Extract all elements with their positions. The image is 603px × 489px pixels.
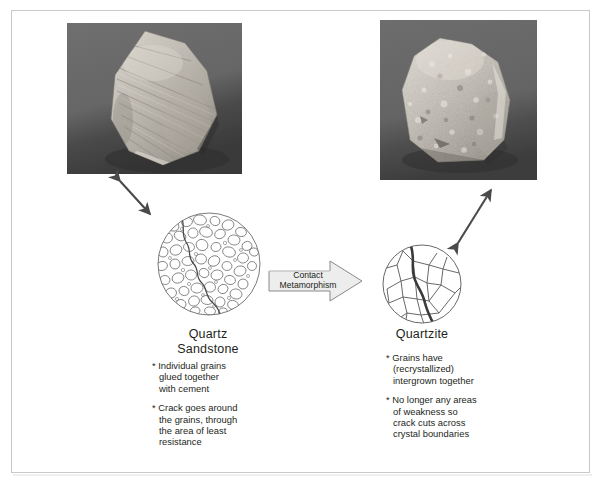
figure-root: Contact Metamorphism Quartz Sandstone * … [0,0,603,489]
sandstone-micrograph-circle [155,210,263,318]
left-bullet-1: * Individual grains glued together with … [152,360,272,394]
right-bullet-list: * Grains have (recrystallized) intergrow… [386,352,510,440]
right-bullet-1: * Grains have (recrystallized) intergrow… [386,352,510,386]
right-caption: Quartzite [360,327,484,342]
left-caption-line1: Quartz [146,327,270,342]
left-caption: Quartz Sandstone [146,327,270,356]
left-bullet-2: * Crack goes around the grains, through … [152,402,272,448]
frame-shadow [13,474,592,476]
contact-metamorphism-label: Contact Metamorphism [273,270,343,290]
quartz-sandstone-photo [67,23,242,174]
quartzite-photo [380,20,537,180]
arrow-label-line1: Contact [273,270,343,280]
right-bullet-2: * No longer any areas of weakness so cra… [386,394,510,440]
left-bullet-list: * Individual grains glued together with … [152,360,272,448]
right-caption-line1: Quartzite [360,327,484,342]
arrow-label-line2: Metamorphism [273,280,343,290]
left-caption-line2: Sandstone [146,342,270,357]
quartzite-micrograph-circle [381,243,465,327]
